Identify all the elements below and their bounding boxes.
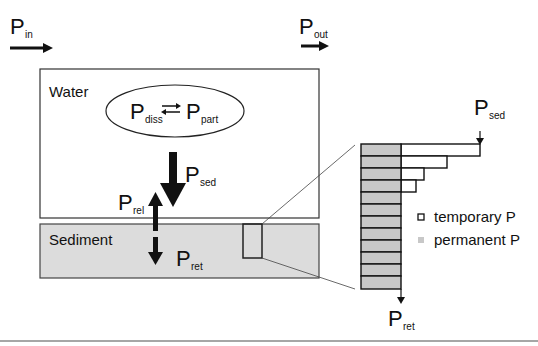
phosphorus-diagram: P in P out Water P diss P part P sed xyxy=(0,0,538,346)
svg-text:P: P xyxy=(10,14,25,39)
p-sed-detail-label: P sed xyxy=(474,95,505,121)
svg-text:P: P xyxy=(474,95,489,120)
svg-text:ret: ret xyxy=(403,321,415,332)
p-ret-detail-arrow-icon xyxy=(397,289,405,304)
p-in-label: P in xyxy=(10,14,33,40)
legend-temporary-label: temporary P xyxy=(434,208,516,225)
svg-text:P: P xyxy=(388,306,403,331)
water-label: Water xyxy=(49,83,88,100)
svg-text:rel: rel xyxy=(133,205,144,216)
legend-permanent-label: permanent P xyxy=(434,231,520,248)
sediment-label: Sediment xyxy=(49,231,113,248)
svg-text:in: in xyxy=(25,29,33,40)
svg-text:P: P xyxy=(130,99,145,124)
temporary-p-bars xyxy=(401,144,480,192)
p-out-arrow-icon xyxy=(301,41,329,51)
svg-text:out: out xyxy=(314,29,328,40)
svg-text:P: P xyxy=(185,162,200,187)
svg-text:P: P xyxy=(118,190,133,215)
temporary-swatch-icon xyxy=(418,214,424,220)
p-out-label: P out xyxy=(299,14,328,40)
legend: temporary P permanent P xyxy=(418,208,520,248)
svg-text:sed: sed xyxy=(200,177,216,188)
permanent-p-layers xyxy=(361,144,401,289)
svg-text:part: part xyxy=(201,114,218,125)
permanent-swatch-icon xyxy=(418,237,424,243)
svg-text:P: P xyxy=(176,246,191,271)
svg-text:sed: sed xyxy=(489,110,505,121)
p-ret-detail-label: P ret xyxy=(388,306,415,332)
p-in-arrow-icon xyxy=(10,43,53,53)
svg-text:P: P xyxy=(186,99,201,124)
p-sed-detail-arrow-icon xyxy=(476,131,484,145)
svg-text:ret: ret xyxy=(191,261,203,272)
svg-text:diss: diss xyxy=(145,114,163,125)
equilibrium-ellipse xyxy=(106,85,244,137)
svg-text:P: P xyxy=(299,14,314,39)
